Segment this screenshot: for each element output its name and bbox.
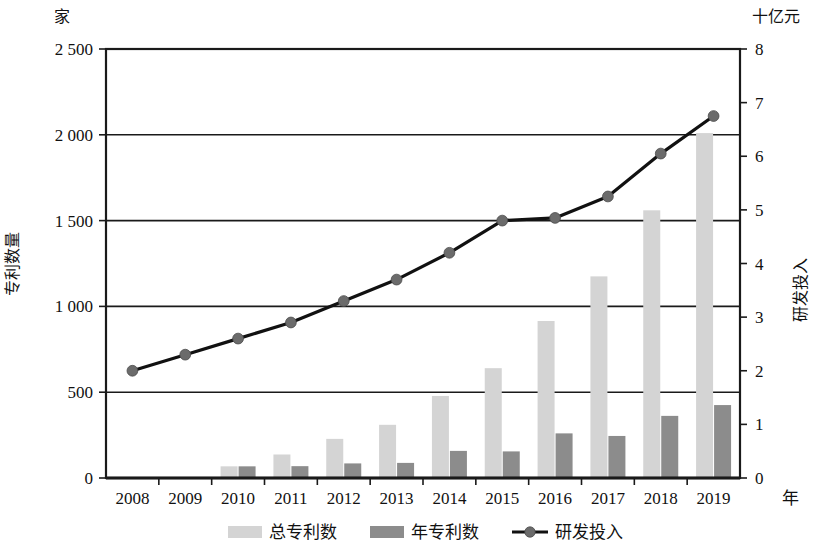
legend-swatch <box>370 526 404 538</box>
bar-总专利数-2013 <box>379 425 396 478</box>
bar-总专利数-2017 <box>590 276 607 478</box>
bar-年专利数-2010 <box>239 466 256 478</box>
right-tick-label: 3 <box>755 308 764 327</box>
left-tick-label: 2 000 <box>55 126 93 145</box>
line-marker-2009 <box>180 349 191 360</box>
right-tick-label: 1 <box>755 415 764 434</box>
bar-年专利数-2017 <box>608 436 625 478</box>
left-axis-title: 专利数量 <box>3 232 22 296</box>
right-axis-title: 研发投入 <box>791 258 810 322</box>
x-tick-label-2014: 2014 <box>432 489 467 508</box>
line-marker-2018 <box>655 148 666 159</box>
bar-总专利数-2010 <box>221 466 238 478</box>
left-tick-label: 500 <box>68 383 94 402</box>
line-marker-2017 <box>603 191 614 202</box>
right-axis-unit: 十亿元 <box>752 7 800 26</box>
bar-年专利数-2014 <box>450 451 467 478</box>
right-tick-label: 6 <box>755 147 764 166</box>
legend-marker <box>525 527 535 537</box>
bar-年专利数-2018 <box>661 416 678 478</box>
x-tick-label-2008: 2008 <box>115 489 149 508</box>
bar-年专利数-2016 <box>556 433 573 478</box>
bar-总专利数-2018 <box>643 210 660 478</box>
x-tick-label-2011: 2011 <box>274 489 307 508</box>
left-axis-unit: 家 <box>54 7 70 26</box>
patent-rd-chart: 家 十亿元 专利数量 研发投入 年 05001 0001 5002 0002 5… <box>0 0 818 553</box>
right-tick-label: 2 <box>755 362 764 381</box>
line-marker-2013 <box>391 274 402 285</box>
left-tick-label: 1 500 <box>55 212 93 231</box>
bar-年专利数-2015 <box>503 451 520 478</box>
bar-年专利数-2019 <box>714 405 731 478</box>
legend-label: 研发投入 <box>555 522 623 542</box>
x-tick-label-2016: 2016 <box>538 489 572 508</box>
chart-canvas: 家 十亿元 专利数量 研发投入 年 05001 0001 5002 0002 5… <box>0 0 818 553</box>
right-tick-label: 7 <box>755 94 764 113</box>
bar-年专利数-2011 <box>291 466 308 478</box>
bar-总专利数-2019 <box>696 133 713 478</box>
line-marker-2010 <box>233 333 244 344</box>
left-tick-label: 2 500 <box>55 40 93 59</box>
line-marker-2011 <box>286 317 297 328</box>
x-tick-label-2013: 2013 <box>380 489 414 508</box>
legend-swatch <box>228 526 262 538</box>
x-tick-label-2017: 2017 <box>591 489 626 508</box>
left-tick-label: 0 <box>85 469 94 488</box>
x-axis-unit: 年 <box>782 489 799 508</box>
x-tick-label-2010: 2010 <box>221 489 255 508</box>
left-tick-label: 1 000 <box>55 297 93 316</box>
bar-年专利数-2012 <box>344 463 361 478</box>
line-marker-2016 <box>550 213 561 224</box>
x-tick-label-2018: 2018 <box>644 489 678 508</box>
bar-总专利数-2011 <box>273 454 290 478</box>
right-tick-label: 5 <box>755 201 764 220</box>
right-tick-label: 4 <box>755 255 764 274</box>
line-marker-2019 <box>708 111 719 122</box>
bar-总专利数-2012 <box>326 439 343 478</box>
chart-legend: 总专利数年专利数研发投入 <box>228 522 623 542</box>
x-tick-label-2019: 2019 <box>697 489 731 508</box>
bar-总专利数-2015 <box>485 368 502 478</box>
line-marker-2014 <box>444 247 455 258</box>
x-tick-label-2009: 2009 <box>168 489 202 508</box>
x-tick-label-2012: 2012 <box>327 489 361 508</box>
bar-年专利数-2013 <box>397 463 414 478</box>
line-marker-2012 <box>338 296 349 307</box>
legend-label: 总专利数 <box>269 522 337 542</box>
x-tick-label-2015: 2015 <box>485 489 519 508</box>
legend-label: 年专利数 <box>411 522 479 542</box>
line-marker-2008 <box>127 365 138 376</box>
right-tick-label: 0 <box>755 469 764 488</box>
bar-总专利数-2014 <box>432 396 449 478</box>
right-tick-label: 8 <box>755 40 764 59</box>
line-marker-2015 <box>497 215 508 226</box>
bar-总专利数-2016 <box>538 321 555 478</box>
